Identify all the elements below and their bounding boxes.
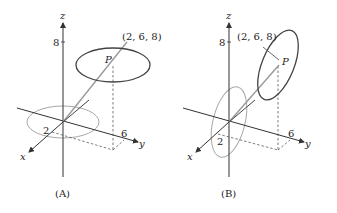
panel-caption: (B): [221, 188, 236, 199]
y-axis: [183, 108, 304, 142]
projection-line: [52, 132, 113, 150]
y-tick-label: 6: [121, 128, 127, 139]
z-axis-label: z: [59, 10, 66, 21]
panel-caption: (A): [55, 188, 70, 199]
projection-line: [113, 140, 124, 150]
point-coords-label: (2, 6, 8): [122, 31, 162, 42]
x-axis-label: x: [20, 151, 26, 162]
x-axis-label: x: [187, 151, 193, 162]
z-tick-label: 8: [53, 37, 59, 48]
panel-b: z 8 (2, 6, 8) P 2 6 y x (B): [183, 10, 311, 199]
projection-line: [278, 140, 290, 150]
projection-line: [218, 134, 278, 150]
point-coords-label: (2, 6, 8): [237, 31, 277, 42]
radius-vector: [229, 100, 255, 122]
x-tick-label: 2: [43, 125, 49, 136]
y-axis-label: y: [304, 138, 311, 149]
position-vector: [229, 65, 279, 122]
point-p-label: P: [281, 56, 289, 67]
z-tick-label: 8: [219, 37, 225, 48]
figure: z 8 (2, 6, 8) P 2 6 y x (A) z 8 (2, 6, 8…: [0, 0, 337, 213]
x-tick-label: 2: [217, 136, 223, 147]
y-axis-label: y: [138, 138, 145, 149]
z-axis-label: z: [225, 10, 232, 21]
panel-a: z 8 (2, 6, 8) P 2 6 y x (A): [17, 10, 162, 199]
radius-vector: [63, 100, 89, 122]
y-tick-label: 6: [288, 128, 294, 139]
point-p-label: P: [104, 54, 112, 65]
